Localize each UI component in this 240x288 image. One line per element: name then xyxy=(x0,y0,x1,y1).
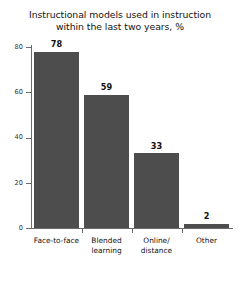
x-axis-category-online-distance-line-1: Online/ xyxy=(134,236,179,246)
plot-area: 0 20 40 60 80 78 Face-to-face 59 Blended… xyxy=(0,0,240,288)
x-axis-category-blended-learning-line-1: Blended xyxy=(84,236,129,246)
y-axis-label-80: 80 xyxy=(0,44,23,51)
x-axis-category-online-distance-line-2: distance xyxy=(134,246,179,256)
y-axis-tick-80 xyxy=(26,47,32,48)
y-axis-tick-60 xyxy=(26,92,32,93)
x-axis-category-blended-learning: Blended learning xyxy=(84,236,129,255)
y-axis-tick-40 xyxy=(26,138,32,139)
y-axis-label-20: 20 xyxy=(0,180,23,187)
bar-value-other: 2 xyxy=(184,212,229,220)
y-axis-label-0: 0 xyxy=(0,225,23,232)
x-axis-category-online-distance: Online/ distance xyxy=(134,236,179,255)
y-axis-tick-0 xyxy=(26,228,32,229)
y-axis-label-60: 60 xyxy=(0,89,23,96)
x-axis-category-other: Other xyxy=(184,236,229,246)
x-axis-category-face-to-face-line-1: Face-to-face xyxy=(21,236,92,246)
x-axis-tick-1 xyxy=(82,229,83,233)
bar-chart-figure: Instructional models used in instruction… xyxy=(0,0,240,288)
bar-value-online-distance: 33 xyxy=(134,142,179,150)
bar-blended-learning xyxy=(84,95,129,229)
bar-online-distance xyxy=(134,153,179,228)
bar-value-blended-learning: 59 xyxy=(84,83,129,91)
x-axis-tick-3 xyxy=(182,229,183,233)
bar-other xyxy=(184,224,229,229)
x-axis-category-face-to-face: Face-to-face xyxy=(21,236,92,246)
x-axis-tick-2 xyxy=(132,229,133,233)
y-axis-tick-20 xyxy=(26,183,32,184)
bar-face-to-face xyxy=(34,52,79,229)
bar-value-face-to-face: 78 xyxy=(34,40,79,48)
x-axis-category-other-line-1: Other xyxy=(184,236,229,246)
y-axis-label-40: 40 xyxy=(0,134,23,141)
x-axis-category-blended-learning-line-2: learning xyxy=(84,246,129,256)
